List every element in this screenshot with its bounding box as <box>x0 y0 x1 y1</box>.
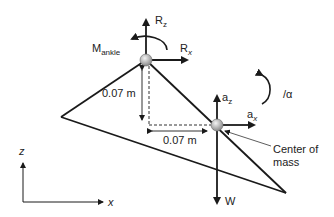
horizontal-distance-label: 0.07 m <box>163 134 197 146</box>
dimension-guides <box>149 66 211 125</box>
m-ankle-label: Mankle <box>92 42 121 57</box>
ankle-joint <box>140 54 152 66</box>
horizontal-distance-dimension: 0.07 m <box>152 131 207 146</box>
com-label-line2: mass <box>273 156 300 168</box>
coordinate-axes: z x <box>18 145 114 208</box>
ankle-reaction-forces: Rz Rx Mankle <box>92 14 193 60</box>
az-label: az <box>222 91 232 106</box>
center-of-mass-marker <box>211 119 223 131</box>
weight-label: W <box>225 195 236 207</box>
foot-segment <box>61 60 286 193</box>
vertical-distance-label: 0.07 m <box>102 87 136 99</box>
ax-label: ax <box>247 108 258 123</box>
vertical-distance-dimension: 0.07 m <box>102 70 142 120</box>
x-axis-label: x <box>107 196 114 208</box>
foot-free-body-diagram: 0.07 m 0.07 m Rz Rx Mankle az ax W Cente… <box>0 0 334 217</box>
rz-label: Rz <box>155 14 167 29</box>
rx-label: Rx <box>180 42 193 57</box>
angular-acceleration: /α <box>262 75 293 104</box>
com-label-line1: Center of <box>273 143 319 155</box>
com-forces: az ax W <box>217 91 258 207</box>
alpha-label: /α <box>283 88 293 100</box>
z-axis-label: z <box>18 145 25 157</box>
